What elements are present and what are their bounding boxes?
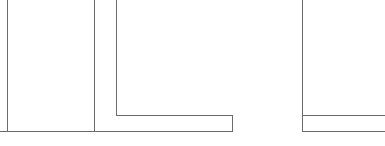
drawing-canvas [0, 0, 385, 146]
line-drawing-svg [0, 0, 385, 146]
canvas-background [0, 0, 385, 146]
